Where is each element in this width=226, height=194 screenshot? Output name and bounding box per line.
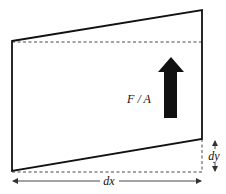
dy-label: dy: [208, 149, 220, 163]
dx-label: dx: [103, 174, 115, 188]
force-per-area-label: F / A: [126, 92, 151, 106]
diagram-canvas: F / A dx dy: [0, 0, 226, 194]
force-arrow-icon: [158, 57, 184, 118]
shear-diagram: F / A dx dy: [0, 0, 226, 194]
